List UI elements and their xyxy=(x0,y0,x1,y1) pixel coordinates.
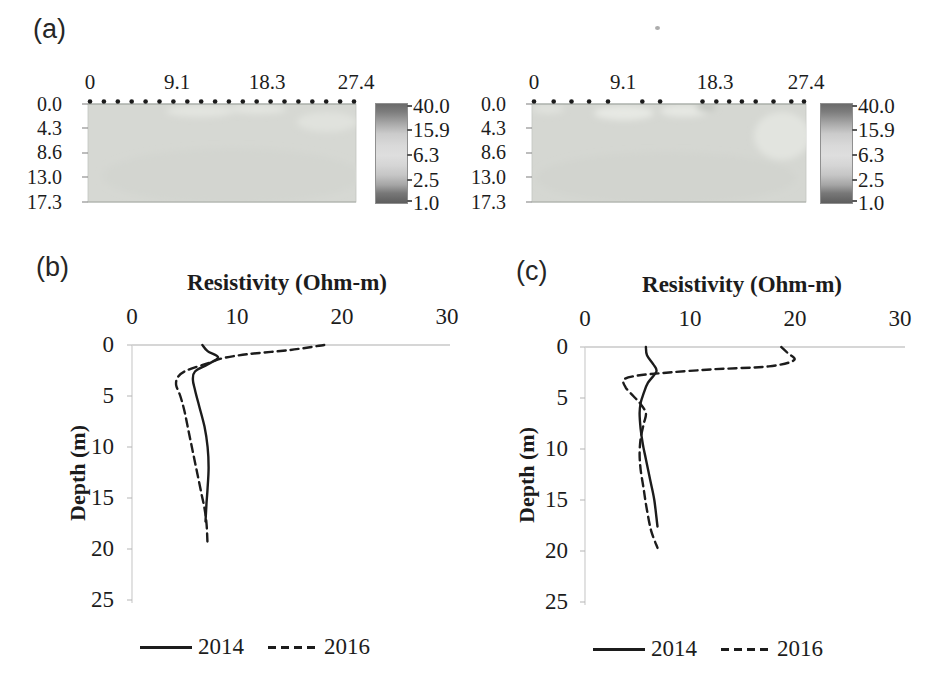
section-right-xtick-3: 27.4 xyxy=(788,70,825,95)
electrode-dot xyxy=(185,99,190,104)
chart-b-series xyxy=(176,345,324,546)
electrode-dot xyxy=(569,99,574,104)
chart-c-ytick-0: 0 xyxy=(532,335,568,359)
colorbar-left xyxy=(375,103,408,204)
colorbar-left-label-2: 6.3 xyxy=(413,143,439,167)
electrode-dot xyxy=(296,99,301,104)
colorbar-left-label-3: 2.5 xyxy=(413,168,439,192)
colorbar-left-tickmark xyxy=(407,200,412,202)
electrode-dot xyxy=(658,99,663,104)
y-axis-ticks xyxy=(127,345,132,600)
chart-b-ytick-0: 0 xyxy=(78,333,114,357)
chart-b-xtick-0: 0 xyxy=(110,304,154,330)
colorbar-right-tickmark xyxy=(852,154,857,156)
section-depth-ticks xyxy=(526,104,532,202)
chart-b-title: Resistivity (Ohm-m) xyxy=(127,270,447,296)
chart-b-ytick-1: 5 xyxy=(78,384,114,408)
section-right-depth-4: 17.3 xyxy=(460,190,506,214)
section-depth-ticks xyxy=(82,104,88,202)
colorbar-left-label-1: 15.9 xyxy=(413,118,450,142)
figure-root: (a) (b) (c) 0 9.1 18.3 27.4 0.0 4.3 8.6 … xyxy=(0,0,945,686)
chart-c-series xyxy=(623,347,795,548)
electrode-dot xyxy=(213,99,218,104)
electrode-dot xyxy=(352,99,357,104)
colorbar-left-label-4: 1.0 xyxy=(413,191,439,215)
chart-c-xtick-2: 20 xyxy=(773,306,817,332)
electrode-dot xyxy=(606,99,611,104)
legend-label-2014: 2014 xyxy=(651,636,697,662)
colorbar-right-label-0: 40.0 xyxy=(858,94,895,118)
electrode-dot xyxy=(789,99,794,104)
colorbar-left-tickmark xyxy=(407,179,412,181)
resistivity-section-left xyxy=(82,98,358,206)
electrode-dot xyxy=(157,99,162,104)
electrode-dot xyxy=(338,99,343,104)
chart-c-ylabel: Depth (m) xyxy=(514,415,540,535)
chart-b-ylabel: Depth (m) xyxy=(65,413,91,533)
electrode-dot xyxy=(727,99,732,104)
section-right-xtick-2: 18.3 xyxy=(697,70,734,95)
electrode-dot xyxy=(640,99,645,104)
electrode-dot xyxy=(282,99,287,104)
electrode-dot xyxy=(771,99,776,104)
electrode-dots xyxy=(88,99,357,104)
colorbar-left-tickmark xyxy=(407,129,412,131)
electrode-dot xyxy=(802,99,807,104)
electrode-dot xyxy=(88,99,93,104)
colorbar-right-tickmark xyxy=(852,179,857,181)
section-right-xtick-0: 0 xyxy=(529,70,540,95)
series-line-2014 xyxy=(193,345,218,522)
section-right-depth-2: 8.6 xyxy=(460,140,506,164)
panel-c-label: (c) xyxy=(516,256,547,287)
section-right-depth-1: 4.3 xyxy=(460,116,506,140)
legend-label-2016: 2016 xyxy=(324,634,370,660)
electrode-dot xyxy=(171,99,176,104)
legend-solid-line-sample xyxy=(140,646,192,649)
electrode-dot xyxy=(310,99,315,104)
electrode-dot xyxy=(227,99,232,104)
legend-label-2014: 2014 xyxy=(198,634,244,660)
chart-c-xtick-1: 10 xyxy=(668,306,712,332)
series-line-2016 xyxy=(623,347,795,548)
section-left-depth-0: 0.0 xyxy=(16,92,62,116)
section-left-depth-2: 8.6 xyxy=(16,140,62,164)
electrode-dot xyxy=(129,99,134,104)
colorbar-right-tickmark xyxy=(852,200,857,202)
electrode-dot xyxy=(532,99,537,104)
electrode-dot xyxy=(753,99,758,104)
colorbar-right-tickmark xyxy=(852,129,857,131)
chart-b-ytick-4: 20 xyxy=(78,537,114,561)
chart-c-ytick-4: 20 xyxy=(532,539,568,563)
electrode-dot xyxy=(268,99,273,104)
electrode-dot xyxy=(241,99,246,104)
chart-c-title: Resistivity (Ohm-m) xyxy=(582,272,902,298)
colorbar-left-label-0: 40.0 xyxy=(413,94,450,118)
colorbar-right-label-2: 6.3 xyxy=(858,143,884,167)
electrode-dot xyxy=(587,99,592,104)
legend-solid-line-sample xyxy=(593,648,645,651)
colorbar-right-label-4: 1.0 xyxy=(858,191,884,215)
electrode-dot xyxy=(740,99,745,104)
electrode-dot xyxy=(551,99,556,104)
resistivity-section-right xyxy=(526,98,808,206)
section-left-xtick-1: 9.1 xyxy=(164,70,190,95)
legend-dashed-line-sample xyxy=(721,648,771,651)
electrode-dot xyxy=(254,99,259,104)
colorbar-right-label-3: 2.5 xyxy=(858,168,884,192)
chart-c-ytick-5: 25 xyxy=(532,590,568,614)
y-axis-ticks xyxy=(580,347,585,602)
legend-dashed-line-sample xyxy=(268,646,318,649)
electrode-dot xyxy=(714,99,719,104)
section-left-xtick-3: 27.4 xyxy=(338,70,375,95)
electrode-dots xyxy=(532,99,807,104)
panel-b-label: (b) xyxy=(36,252,69,283)
series-line-2016 xyxy=(176,345,324,546)
electrode-dot xyxy=(102,99,107,104)
section-left-depth-4: 17.3 xyxy=(16,190,62,214)
colorbar-left-tickmark xyxy=(407,105,412,107)
section-right-depth-0: 0.0 xyxy=(460,92,506,116)
electrode-dot xyxy=(199,99,204,104)
section-left-depth-3: 13.0 xyxy=(16,165,62,189)
electrode-dot xyxy=(700,99,705,104)
chart-b-legend: 2014 2016 xyxy=(140,633,370,661)
